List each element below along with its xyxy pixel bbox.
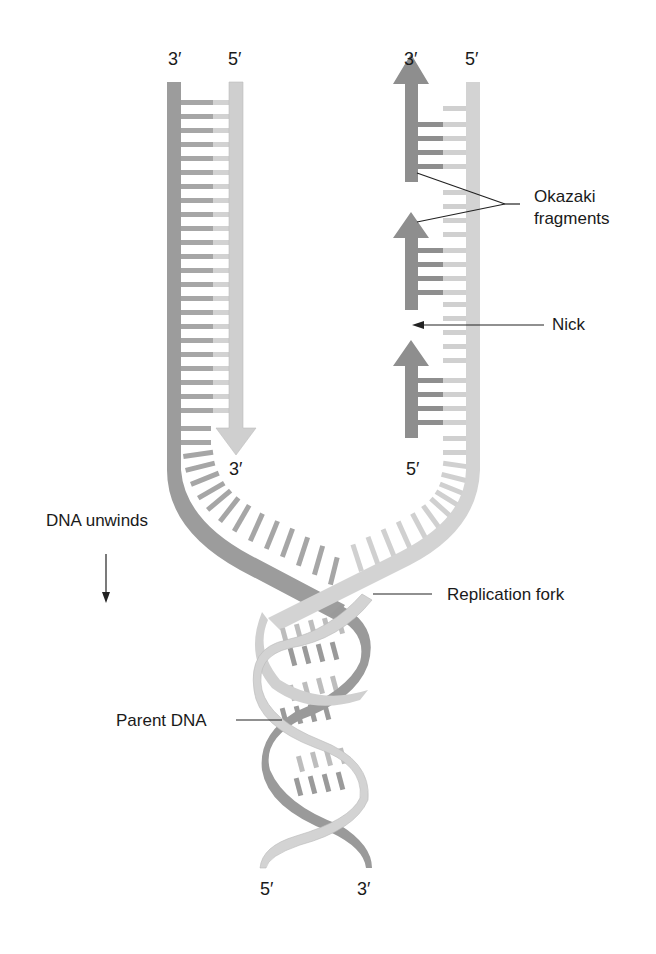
parental-strand-left bbox=[167, 82, 345, 620]
okazaki-fragment-2 bbox=[393, 212, 466, 310]
leading-strand-arm bbox=[167, 82, 345, 620]
okazaki-fragment-1 bbox=[393, 54, 466, 182]
nick-arrowhead-icon bbox=[412, 321, 424, 329]
label-okazaki-line1: Okazaki bbox=[534, 188, 595, 205]
label-left-5prime: 5′ bbox=[228, 50, 241, 68]
label-bottom-5prime: 5′ bbox=[260, 880, 273, 898]
dna-replication-figure: 3′ 5′ 3′ 5′ 3′ 5′ 5′ 3′ Okazaki fragment… bbox=[0, 0, 656, 954]
okazaki-pointer-1 bbox=[417, 173, 505, 204]
lagging-strand-arm bbox=[268, 54, 480, 630]
label-parent-dna: Parent DNA bbox=[116, 712, 207, 729]
okazaki-fragment-3 bbox=[393, 340, 466, 438]
diagram-art bbox=[0, 0, 656, 954]
label-right-5prime: 5′ bbox=[465, 50, 478, 68]
label-nick: Nick bbox=[552, 316, 585, 333]
label-right-3prime: 3′ bbox=[404, 50, 417, 68]
base-pairs-leading bbox=[181, 100, 340, 585]
parent-helix bbox=[253, 594, 372, 868]
label-bottom-3prime: 3′ bbox=[357, 880, 370, 898]
label-leading-3prime: 3′ bbox=[229, 460, 242, 478]
label-left-3prime: 3′ bbox=[168, 50, 181, 68]
label-lagging-5prime: 5′ bbox=[406, 460, 419, 478]
down-arrow-icon bbox=[102, 592, 110, 603]
label-dna-unwinds: DNA unwinds bbox=[46, 512, 148, 529]
label-okazaki-line2: fragments bbox=[534, 210, 610, 227]
label-replication-fork: Replication fork bbox=[447, 586, 564, 603]
